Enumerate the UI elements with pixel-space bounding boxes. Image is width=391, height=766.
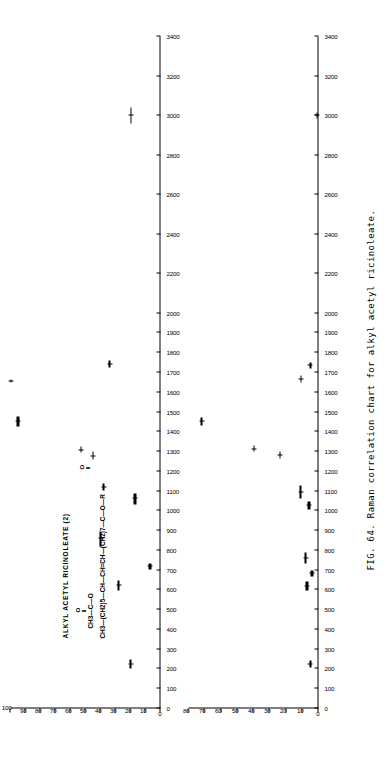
x-axis-tick-label: 400 xyxy=(166,626,176,632)
x-axis-tick-label: 1500 xyxy=(324,409,337,415)
x-axis-tick-label: 2000 xyxy=(324,310,337,316)
x-axis-tick-label: 400 xyxy=(324,626,334,632)
x-axis-tick xyxy=(156,549,160,550)
x-axis-tick-label: 1700 xyxy=(166,369,179,375)
x-axis-tick xyxy=(156,529,160,530)
y-axis-tick-label: 20 xyxy=(124,707,130,713)
band-center-marker xyxy=(298,378,303,379)
band-center-marker xyxy=(116,584,121,585)
band-center-marker xyxy=(307,364,312,365)
x-axis-tick xyxy=(156,391,160,392)
x-axis-tick-label: 1100 xyxy=(166,488,179,494)
x-axis-tick xyxy=(156,648,160,649)
x-axis-tick xyxy=(314,193,318,194)
x-axis-tick xyxy=(314,667,318,668)
x-axis-tick xyxy=(156,35,160,36)
x-axis-tick xyxy=(156,411,160,412)
x-axis-tick xyxy=(314,351,318,352)
x-axis-tick xyxy=(314,35,318,36)
x-axis-tick xyxy=(156,470,160,471)
y-axis-tick-label: 30 xyxy=(109,707,115,713)
x-axis-tick-label: 300 xyxy=(324,646,334,652)
x-axis-tick xyxy=(314,628,318,629)
y-axis-tick-label: 90 xyxy=(19,707,25,713)
x-axis-tick xyxy=(314,529,318,530)
x-axis-tick xyxy=(156,272,160,273)
y-axis-tick-label: 60 xyxy=(64,707,70,713)
formula-acetyl-line: CH3—C—O xyxy=(86,593,95,628)
band-center-marker xyxy=(107,363,112,364)
band-center-marker xyxy=(314,114,319,115)
x-axis-tick xyxy=(156,687,160,688)
x-axis-tick xyxy=(314,154,318,155)
x-axis-tick xyxy=(314,608,318,609)
x-axis-tick-label: 3200 xyxy=(324,73,337,79)
y-axis-tick-label: 10 xyxy=(139,707,145,713)
y-axis-tick-label: 20 xyxy=(280,707,286,713)
x-axis-tick xyxy=(314,569,318,570)
x-axis-tick-label: 1500 xyxy=(166,409,179,415)
x-axis-tick-label: 1400 xyxy=(166,428,179,434)
x-axis-tick-label: 300 xyxy=(166,646,176,652)
band-center-marker xyxy=(15,420,20,421)
double-bond-marker-2: ‖ xyxy=(84,466,90,469)
x-axis-tick xyxy=(314,450,318,451)
x-axis-tick-label: 1100 xyxy=(324,488,337,494)
x-axis-tick-label: 2000 xyxy=(166,310,179,316)
x-axis-tick-label: 800 xyxy=(166,547,176,553)
x-axis-tick-label: 2200 xyxy=(324,270,337,276)
x-axis-tick-label: 2400 xyxy=(324,231,337,237)
x-axis-tick xyxy=(156,75,160,76)
x-axis-tick-label: 3400 xyxy=(324,33,337,39)
y-axis-tick-label: 0 xyxy=(316,711,319,717)
y-axis-tick-label: 70 xyxy=(49,707,55,713)
x-axis-tick xyxy=(156,588,160,589)
band-center-marker xyxy=(251,448,256,449)
x-axis-tick-label: 800 xyxy=(324,547,334,553)
x-axis-tick-label: 2200 xyxy=(166,270,179,276)
x-axis-tick-label: 3200 xyxy=(166,73,179,79)
y-axis-tick-label: 50 xyxy=(79,707,85,713)
band-center-marker xyxy=(132,498,137,499)
x-axis-tick-label: 3000 xyxy=(166,112,179,118)
x-axis-tick-label: 1200 xyxy=(166,468,179,474)
x-axis-tick xyxy=(314,312,318,313)
y-axis-tick-label: 0 xyxy=(158,711,161,717)
band-center-marker xyxy=(199,420,204,421)
y-axis-tick-label: 70 xyxy=(199,707,205,713)
x-axis-tick xyxy=(156,628,160,629)
band-center-marker xyxy=(304,585,309,586)
x-axis-tick-label: 2600 xyxy=(324,191,337,197)
x-axis-tick-label: 3000 xyxy=(324,112,337,118)
x-axis-tick-label: 500 xyxy=(324,606,334,612)
x-axis-tick xyxy=(314,470,318,471)
x-axis-tick xyxy=(314,588,318,589)
x-axis-tick xyxy=(314,371,318,372)
y-axis-tick-label: 10 xyxy=(296,707,302,713)
x-axis-tick-label: 900 xyxy=(324,527,334,533)
x-axis-tick-label: 1000 xyxy=(166,507,179,513)
band-center-marker xyxy=(101,486,106,487)
x-axis-tick xyxy=(156,667,160,668)
x-axis-tick xyxy=(156,312,160,313)
band-center-marker xyxy=(307,663,312,664)
x-axis-tick-label: 100 xyxy=(166,685,176,691)
x-axis-tick-label: 200 xyxy=(324,665,334,671)
x-axis-tick-label: 1800 xyxy=(166,349,179,355)
x-axis-tick xyxy=(156,509,160,510)
x-axis-tick xyxy=(314,509,318,510)
x-axis-tick xyxy=(156,371,160,372)
double-bond-marker-1: ‖ xyxy=(80,609,86,612)
band-center-marker xyxy=(277,454,282,455)
x-axis-tick-label: 1300 xyxy=(166,448,179,454)
x-axis-tick xyxy=(156,351,160,352)
chart-panel-lower: 0100200300400500600700800900100011001200… xyxy=(184,18,369,748)
y-axis-tick-label: 60 xyxy=(215,707,221,713)
y-axis-tick-label: 50 xyxy=(231,707,237,713)
x-axis-tick xyxy=(156,490,160,491)
x-axis-tick-label: 1000 xyxy=(324,507,337,513)
x-axis-tick-label: 900 xyxy=(166,527,176,533)
y-axis-tick-label: 80 xyxy=(182,707,188,713)
formula-main-chain: CH3—(CH2)5—CH—CH=CH—(CH2)7—C—O—R xyxy=(98,494,107,638)
carbonyl-oxygen-2: O xyxy=(78,464,84,469)
